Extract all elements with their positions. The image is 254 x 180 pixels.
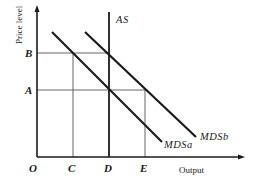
as-label: AS <box>115 14 129 25</box>
price-b-label: B <box>24 47 32 59</box>
y-axis-title: Price level <box>14 5 24 44</box>
mdsa-curve <box>52 32 162 142</box>
output-e-label: E <box>139 162 147 174</box>
mds-as-diagram: Price level Output B A O C D E AS MDSa M… <box>0 0 254 180</box>
x-axis-title: Output <box>179 165 205 175</box>
output-d-label: D <box>103 162 112 174</box>
mdsa-label: MDSa <box>163 139 193 150</box>
x-axis-arrow-icon <box>238 155 245 160</box>
mdsb-label: MDSb <box>199 131 229 142</box>
price-a-label: A <box>24 84 32 96</box>
origin-label: O <box>29 162 37 174</box>
output-c-label: C <box>68 162 76 174</box>
y-axis-arrow-icon <box>35 5 40 12</box>
